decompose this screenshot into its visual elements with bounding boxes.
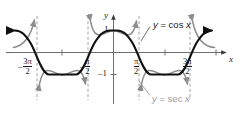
trig-graph-figure: y x 1 –1 – 3π 2 – π 2 π 2 3π 2 y = cos <box>0 0 243 116</box>
fraction-numerator: π <box>134 57 139 67</box>
cos-label-function: cos <box>169 19 184 30</box>
y-tick-label-1: 1 <box>104 25 109 34</box>
x-tick-label-3pi-over-2: 3π 2 <box>182 57 192 76</box>
sec-label-variable: x <box>185 93 190 104</box>
x-tick-label-neg-3pi-over-2: – 3π 2 <box>18 57 32 76</box>
fraction-numerator: 3π <box>23 57 33 67</box>
cos-label-variable: x <box>186 19 191 30</box>
minus-sign: – <box>18 62 22 71</box>
sec-label-function: sec <box>168 93 183 104</box>
fraction-denominator: 2 <box>185 67 189 76</box>
fraction-numerator: 3π <box>183 57 193 67</box>
plot-canvas <box>0 0 243 116</box>
cosine-curve-label: y = cos x <box>153 20 191 30</box>
x-tick-label-pi-over-2: π 2 <box>133 57 139 76</box>
y-axis-label: y <box>104 11 108 20</box>
fraction-denominator: 2 <box>85 67 89 76</box>
leader-sec-label <box>139 81 150 96</box>
secant-curve-label: y = sec x <box>152 94 190 104</box>
y-tick-label-neg-1: –1 <box>98 69 107 78</box>
minus-sign: – <box>80 62 84 71</box>
x-axis-label: x <box>229 55 233 64</box>
x-tick-label-neg-pi-over-2: – π 2 <box>80 57 90 76</box>
fraction-denominator: 2 <box>134 67 138 76</box>
fraction-denominator: 2 <box>25 67 29 76</box>
fraction-numerator: π <box>85 57 90 67</box>
leader-cos-label <box>141 27 150 42</box>
